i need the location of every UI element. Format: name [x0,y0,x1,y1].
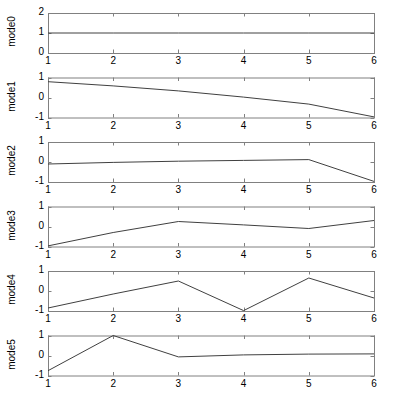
x-tick-label: 5 [294,249,324,260]
axes-frame [49,14,375,54]
y-tick-label: 1 [20,26,44,37]
x-tick-label: 6 [359,55,389,66]
x-tick-label: 3 [163,378,193,389]
y-tick-label: 1 [20,200,44,211]
x-tick-label: 1 [33,249,63,260]
y-axis-label-mode3: mode3 [6,205,17,245]
axes-frame [49,336,375,376]
x-tick-label: 5 [294,120,324,131]
x-tick-label: 6 [359,120,389,131]
x-tick-label: 2 [98,55,128,66]
x-tick-label: 5 [294,378,324,389]
x-tick-label: 2 [98,184,128,195]
x-tick-label: 4 [229,55,259,66]
figure-canvas: 012123456mode0-101123456mode1-101123456m… [0,0,394,402]
x-tick-label: 2 [98,313,128,324]
x-tick-label: 4 [229,120,259,131]
x-tick-label: 2 [98,249,128,260]
data-series-mode3 [48,221,374,246]
y-tick-label: 1 [20,71,44,82]
y-tick-label: 0 [20,91,44,102]
x-tick-label: 1 [33,120,63,131]
y-tick-label: 1 [20,264,44,275]
axes-frame [49,207,375,247]
x-tick-label: 3 [163,249,193,260]
y-tick-label: 1 [20,135,44,146]
axes-frame [49,272,375,312]
y-axis-label-mode5: mode5 [6,334,17,374]
x-tick-label: 2 [98,378,128,389]
x-tick-label: 6 [359,184,389,195]
y-tick-label: 0 [20,220,44,231]
y-tick-label: 1 [20,329,44,340]
data-series-mode4 [48,278,374,311]
data-series-mode5 [48,336,374,371]
y-tick-label: 0 [20,284,44,295]
y-axis-label-mode0: mode0 [6,12,17,52]
y-axis-label-mode1: mode1 [6,76,17,116]
y-tick-label: 0 [20,155,44,166]
axes-frame [49,143,375,183]
x-tick-label: 4 [229,184,259,195]
x-tick-label: 3 [163,184,193,195]
x-tick-label: 1 [33,313,63,324]
x-tick-label: 1 [33,378,63,389]
x-tick-label: 1 [33,184,63,195]
x-tick-label: 1 [33,55,63,66]
x-tick-label: 3 [163,313,193,324]
x-tick-label: 5 [294,313,324,324]
x-tick-label: 6 [359,378,389,389]
x-tick-label: 6 [359,313,389,324]
x-tick-label: 4 [229,313,259,324]
y-axis-label-mode2: mode2 [6,141,17,181]
y-axis-label-mode4: mode4 [6,270,17,310]
data-series-mode1 [48,82,374,117]
x-tick-label: 2 [98,120,128,131]
data-series-mode2 [48,160,374,182]
y-tick-label: 0 [20,349,44,360]
axes-frame [49,78,375,118]
x-tick-label: 3 [163,120,193,131]
x-tick-label: 4 [229,249,259,260]
x-tick-label: 5 [294,184,324,195]
x-tick-label: 6 [359,249,389,260]
y-tick-label: 2 [20,6,44,17]
x-tick-label: 5 [294,55,324,66]
x-tick-label: 3 [163,55,193,66]
x-tick-label: 4 [229,378,259,389]
